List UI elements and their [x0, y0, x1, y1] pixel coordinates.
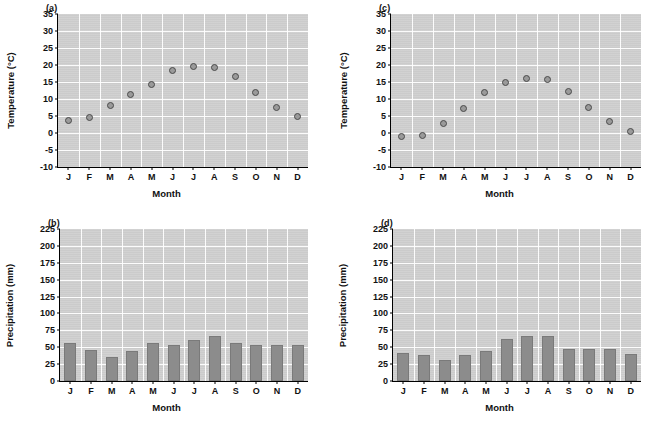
gridline-vertical [558, 14, 559, 167]
panel-c-plot-area: -10-505101520253035JFMAMJJASOND [391, 14, 641, 167]
gridline-vertical [121, 14, 122, 167]
data-bar [64, 343, 76, 381]
data-point-marker [585, 104, 592, 111]
panel-b-precipitation-chart: (b) Precipitation (mm) 02550751001251501… [0, 215, 333, 429]
panel-b-y-axis-line [59, 229, 60, 381]
gridline-vertical [412, 14, 413, 167]
panel-d-x-axis-line [392, 381, 641, 382]
panel-d-y-axis-line [392, 229, 393, 381]
gridline-vertical [599, 14, 600, 167]
gridline-vertical [141, 14, 142, 167]
data-point-marker [148, 81, 155, 88]
data-point-marker [273, 104, 280, 111]
data-bar [501, 339, 513, 381]
gridline-vertical [101, 229, 102, 381]
data-bar [271, 345, 283, 381]
gridline-vertical [287, 14, 288, 167]
gridline-vertical [620, 14, 621, 167]
gridline-vertical [162, 14, 163, 167]
data-point-marker [398, 133, 405, 140]
data-bar [521, 336, 533, 381]
gridline-vertical [579, 14, 580, 167]
data-point-marker [419, 132, 426, 139]
panel-a-y-axis-line [57, 14, 58, 167]
data-bar [563, 349, 575, 381]
gridline-vertical [474, 14, 475, 167]
gridline-vertical [434, 229, 435, 381]
data-point-marker [169, 67, 176, 74]
panel-a-plot-background [58, 14, 308, 167]
data-bar [126, 351, 138, 381]
data-bar [209, 336, 221, 381]
gridline-vertical [455, 229, 456, 381]
panel-c-y-axis-label: Temperature (°C) [335, 14, 351, 167]
data-bar [147, 343, 159, 382]
gridline-vertical [205, 229, 206, 381]
panel-b-plot-area: 0255075100125150175200225JFMAMJJASOND [60, 229, 308, 381]
panel-a-label: (a) [46, 3, 57, 13]
data-bar [85, 350, 97, 381]
gridline-vertical [79, 14, 80, 167]
panel-d-x-axis-label: Month [333, 402, 666, 413]
data-point-marker [107, 102, 114, 109]
gridline-vertical [100, 14, 101, 167]
data-point-marker [211, 64, 218, 71]
gridline-vertical [454, 14, 455, 167]
gridline-vertical [287, 229, 288, 381]
panel-c-label: (c) [379, 3, 390, 13]
gridline-vertical [184, 229, 185, 381]
data-point-marker [481, 89, 488, 96]
panel-b-y-axis-label: Precipitation (mm) [2, 229, 18, 381]
data-point-marker [86, 114, 93, 121]
gridline-vertical [246, 229, 247, 381]
data-point-marker [294, 113, 301, 120]
data-point-marker [606, 118, 613, 125]
gridline-vertical [122, 229, 123, 381]
panel-a-x-axis-line [57, 167, 308, 168]
data-point-marker [252, 89, 259, 96]
panel-c-temperature-chart: (c) Temperature (°C) -10-505101520253035… [333, 0, 666, 215]
gridline-vertical [225, 229, 226, 381]
data-bar [480, 351, 492, 381]
panel-a-y-axis-label: Temperature (°C) [2, 14, 18, 167]
climate-figure: (a) Temperature (°C) -10-505101520253035… [0, 0, 666, 429]
gridline-vertical [600, 229, 601, 381]
data-bar [168, 345, 180, 381]
gridline-vertical [537, 14, 538, 167]
panel-b-x-axis-line [59, 381, 308, 382]
data-point-marker [440, 120, 447, 127]
data-bar [439, 360, 451, 381]
gridline-vertical [516, 14, 517, 167]
data-bar [625, 354, 637, 381]
data-point-marker [544, 76, 551, 83]
gridline-vertical [267, 229, 268, 381]
gridline-vertical [496, 229, 497, 381]
panel-a-x-axis-label: Month [0, 188, 333, 199]
gridline-vertical [538, 229, 539, 381]
gridline-vertical [620, 229, 621, 381]
gridline-vertical [579, 229, 580, 381]
gridline-vertical [558, 229, 559, 381]
data-bar [418, 355, 430, 381]
gridline-vertical [183, 14, 184, 167]
panel-b-plot-background [60, 229, 308, 381]
panel-a-temperature-chart: (a) Temperature (°C) -10-505101520253035… [0, 0, 333, 215]
gridline-vertical [143, 229, 144, 381]
data-point-marker [460, 105, 467, 112]
data-bar [250, 345, 262, 381]
data-point-marker [127, 91, 134, 98]
data-point-marker [232, 73, 239, 80]
data-bar [542, 336, 554, 381]
gridline-vertical [81, 229, 82, 381]
gridline-vertical [495, 14, 496, 167]
data-bar [230, 343, 242, 382]
panel-d-plot-area: 0255075100125150175200225JFMAMJJASOND [393, 229, 641, 381]
gridline-vertical [476, 229, 477, 381]
data-bar [604, 349, 616, 381]
data-point-marker [565, 88, 572, 95]
data-bar [397, 353, 409, 381]
data-bar [106, 357, 118, 381]
data-point-marker [190, 63, 197, 70]
data-bar [188, 340, 200, 381]
panel-b-x-axis-label: Month [0, 402, 333, 413]
